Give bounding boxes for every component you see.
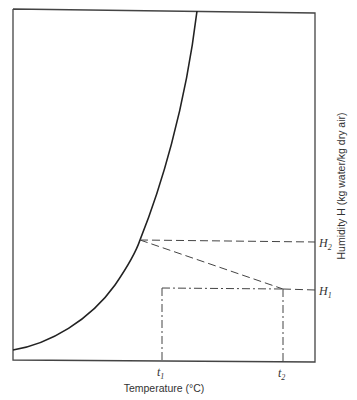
h1-line: [162, 288, 283, 289]
h2-label: H2: [318, 236, 332, 252]
saturation-curve: [13, 11, 197, 350]
t2-label: t2: [278, 366, 285, 382]
h1-extension: [283, 289, 315, 290]
plot-frame: [13, 9, 315, 362]
psychrometric-diagram: H2 H1 t1 t2 Temperature (°C) Humidity H …: [0, 0, 357, 400]
h2-line: [140, 240, 315, 242]
h1-label: H1: [318, 284, 332, 300]
adiabatic-line: [140, 240, 283, 289]
t1-label: t1: [157, 365, 164, 381]
y-axis-label: Humidity H (kg water/kg dry air): [335, 112, 347, 259]
x-axis-label: Temperature (°C): [124, 382, 205, 394]
